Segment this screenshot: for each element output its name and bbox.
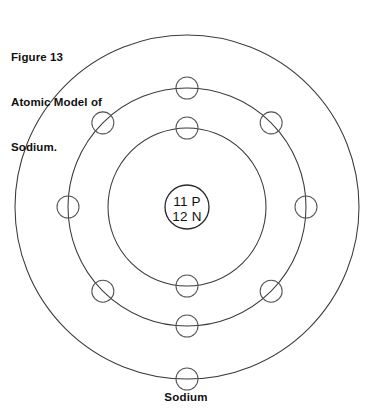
figure-title-line-1: Figure 13 <box>11 50 102 65</box>
nucleus-proton-label: 11 P <box>173 194 201 209</box>
figure-title-line-2: Atomic Model of <box>11 95 102 110</box>
figure-title: Figure 13 Atomic Model of Sodium. <box>11 20 102 185</box>
figure-title-line-3: Sodium. <box>11 140 102 155</box>
nucleus-neutron-label: 12 N <box>172 209 201 224</box>
nucleus: 11 P 12 N <box>165 185 209 229</box>
atomic-model-figure: Figure 13 Atomic Model of Sodium. 11 P 1… <box>0 0 372 410</box>
figure-caption: Sodium <box>0 391 372 403</box>
